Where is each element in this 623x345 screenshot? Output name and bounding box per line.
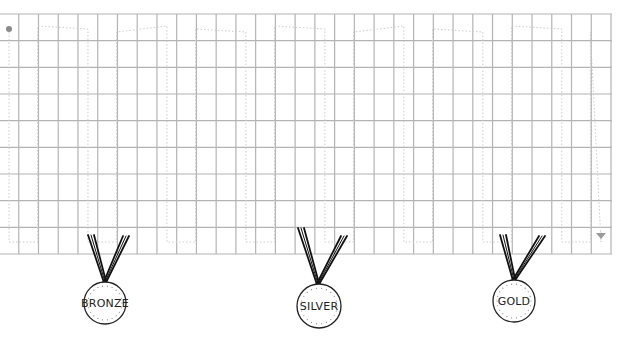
finish-triangle-icon <box>596 233 606 239</box>
silver-ribbon-icon <box>298 228 347 287</box>
silver-medal-label: SILVER <box>300 300 339 313</box>
track-grid <box>0 14 612 254</box>
gold-ribbon-icon <box>500 235 545 283</box>
gold-medal-label: GOLD <box>498 295 531 308</box>
gold-medal[interactable]: GOLD <box>493 235 545 322</box>
bronze-medal-label: BRONZE <box>81 297 129 310</box>
silver-medal[interactable]: SILVER <box>297 228 347 328</box>
bronze-medal[interactable]: BRONZE <box>81 235 129 324</box>
start-dot-icon <box>6 26 12 32</box>
race-board-scene: BRONZE SILVER GOLD <box>0 0 623 345</box>
